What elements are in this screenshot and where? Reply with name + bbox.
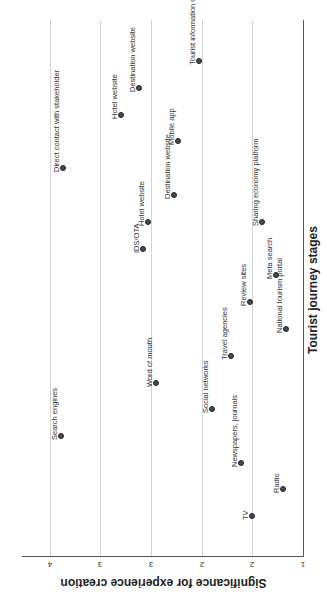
data-point-label: Meta search	[265, 238, 274, 279]
data-point-label: Tourist information office	[188, 0, 197, 65]
data-point-label: Hotel website	[137, 181, 146, 226]
data-point-label: Direct contact with stakeholder	[52, 70, 61, 172]
gridline	[252, 20, 253, 556]
data-point-label: Mobile app	[167, 108, 176, 145]
y-axis-line	[303, 20, 304, 557]
data-point-label: Word of mouth	[145, 338, 154, 387]
y-axis-title: Tourist journey stages	[306, 226, 320, 354]
gridline	[100, 20, 101, 556]
x-axis-line	[22, 556, 304, 557]
x-tick-label: 3	[149, 560, 153, 569]
data-point-label: Hotel website	[110, 74, 119, 119]
data-point-label: IDS/OTA	[132, 224, 141, 253]
data-point-label: Sharing economy platform	[251, 138, 260, 226]
x-axis-title: Significance for experience creation	[0, 576, 327, 590]
data-point-label: TV	[241, 510, 250, 520]
data-point-label: Social networks	[201, 360, 210, 413]
data-point-label: Review sites	[239, 264, 248, 306]
data-point-label: Search engines	[50, 388, 59, 440]
x-tick-label: 1	[301, 560, 305, 569]
scatter-chart: 4 3 3 2 2 1 Significance for experience …	[0, 0, 327, 607]
x-tick-label: 2	[250, 560, 254, 569]
data-point-label: Travel agencies	[220, 307, 229, 360]
data-point-label: Newspapers, journals	[230, 395, 239, 467]
data-point-label: Destination website	[128, 27, 137, 92]
gridline	[151, 20, 152, 556]
x-tick-label: 3	[98, 560, 102, 569]
data-point-label: Radio	[272, 473, 281, 493]
gridline	[50, 20, 51, 556]
x-tick-label: 2	[200, 560, 204, 569]
gridline	[202, 20, 203, 556]
x-tick-label: 4	[48, 560, 52, 569]
data-point-label: National tourism portal	[275, 258, 284, 333]
